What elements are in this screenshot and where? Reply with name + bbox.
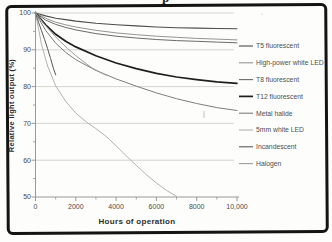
- legend-item-t12-fluorescent: T12 fluorescent: [239, 93, 303, 100]
- y-tick-label-100: 100: [19, 9, 31, 16]
- legend-item-t8-fluorescent: T8 fluorescent: [239, 76, 299, 83]
- x-tick-label-6000: 6000: [149, 203, 165, 210]
- legend-item-t5-fluorescent: T5 fluorescent: [239, 42, 299, 49]
- legend-label-5mm-white-led: 5mm white LED: [256, 126, 304, 133]
- x-tick-label-10,000: 10,000: [226, 203, 248, 210]
- legend-label-incandescent: Incandescent: [256, 143, 297, 150]
- y-tick-label-50: 50: [23, 193, 31, 200]
- legend-label-high-power-white-led: High-power white LED: [256, 59, 324, 67]
- y-tick-label-80: 80: [23, 83, 31, 90]
- legend-label-t5-fluorescent: T5 fluorescent: [256, 42, 299, 49]
- legend-label-t8-fluorescent: T8 fluorescent: [256, 76, 299, 83]
- legend-item-metal-halide: Metal halide: [239, 110, 293, 117]
- series-line-t12-fluorescent: [36, 13, 238, 83]
- legend-item-incandescent: Incandescent: [239, 143, 297, 150]
- x-tick-label-8000: 8000: [189, 203, 205, 210]
- series-line-t5-fluorescent: [36, 13, 238, 29]
- series-line-5mm-white-led: [36, 13, 177, 196]
- scan-smudge: [261, 13, 263, 15]
- legend-item-halogen: Halogen: [239, 160, 282, 168]
- legend-item-5mm-white-led: 5mm white LED: [239, 126, 304, 133]
- x-tick-label-4000: 4000: [108, 203, 124, 210]
- legend-label-halogen: Halogen: [256, 160, 282, 168]
- scanned-chart-figure: p 10090807060500200040006000800010,000T5…: [0, 0, 332, 242]
- legend-label-t12-fluorescent: T12 fluorescent: [256, 93, 303, 100]
- series-line-incandescent: [36, 13, 56, 75]
- y-tick-label-60: 60: [23, 157, 31, 164]
- y-axis-title: Relative light output (%): [7, 11, 18, 201]
- legend-item-high-power-white-led: High-power white LED: [239, 59, 324, 67]
- x-tick-label-0: 0: [34, 203, 38, 210]
- legend-label-metal-halide: Metal halide: [256, 110, 293, 117]
- y-tick-label-90: 90: [23, 46, 31, 53]
- x-axis-title: Hours of operation: [35, 217, 239, 226]
- y-tick-label-70: 70: [23, 120, 31, 127]
- light-output-line-chart: 10090807060500200040006000800010,000T5 f…: [0, 0, 332, 242]
- x-tick-label-2000: 2000: [68, 203, 84, 210]
- series-line-high-power-white-led: [36, 13, 238, 40]
